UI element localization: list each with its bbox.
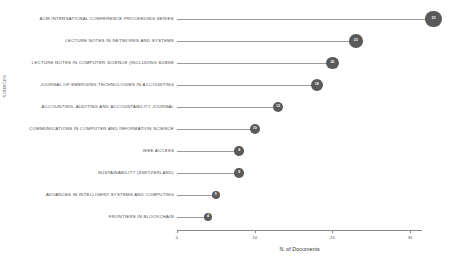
stem-line <box>177 129 255 130</box>
x-tick-mark <box>177 230 178 233</box>
chart-row: SUSTAINABILITY (SWITZERLAND)8 <box>0 162 464 184</box>
x-tick-label: 0 <box>162 235 192 240</box>
x-tick-label: 30 <box>395 235 425 240</box>
stem-line <box>177 41 356 42</box>
value-marker[interactable]: 4 <box>204 213 212 221</box>
category-label: ADVANCES IN INTELLIGENT SYSTEMS AND COMP… <box>0 184 174 206</box>
value-marker[interactable]: 23 <box>349 34 363 48</box>
category-label: JOURNAL OF EMERGING TECHNOLOGIES IN ACCO… <box>0 74 174 96</box>
chart-row: JOURNAL OF EMERGING TECHNOLOGIES IN ACCO… <box>0 74 464 96</box>
x-tick-mark <box>410 230 411 233</box>
x-axis-title: N. of Documents <box>180 246 420 252</box>
plot-area: ACM INTERNATIONAL CONFERENCE PROCEEDING … <box>0 0 464 268</box>
chart-row: COMMUNICATIONS IN COMPUTER AND INFORMATI… <box>0 118 464 140</box>
category-label: ACM INTERNATIONAL CONFERENCE PROCEEDING … <box>0 8 174 30</box>
chart-row: ACCOUNTING, AUDITING AND ACCOUNTABILITY … <box>0 96 464 118</box>
value-marker[interactable]: 8 <box>234 146 243 155</box>
chart-row: LECTURE NOTES IN NETWORKS AND SYSTEMS23 <box>0 30 464 52</box>
stem-line <box>177 173 239 174</box>
chart-row: ACM INTERNATIONAL CONFERENCE PROCEEDING … <box>0 8 464 30</box>
x-tick-label: 20 <box>317 235 347 240</box>
stem-line <box>177 107 278 108</box>
chart-row: FRONTIERS IN BLOCKCHAIN4 <box>0 206 464 228</box>
value-marker[interactable]: 13 <box>273 102 284 113</box>
value-marker[interactable]: 10 <box>250 124 260 134</box>
category-label: FRONTIERS IN BLOCKCHAIN <box>0 206 174 228</box>
x-tick-label: 10 <box>240 235 270 240</box>
chart-row: IEEE ACCESS8 <box>0 140 464 162</box>
value-marker[interactable]: 33 <box>425 11 441 27</box>
stem-line <box>177 195 216 196</box>
chart-row: ADVANCES IN INTELLIGENT SYSTEMS AND COMP… <box>0 184 464 206</box>
x-axis-line <box>177 230 422 231</box>
category-label: COMMUNICATIONS IN COMPUTER AND INFORMATI… <box>0 118 174 140</box>
stem-line <box>177 151 239 152</box>
category-label: SUSTAINABILITY (SWITZERLAND) <box>0 162 174 184</box>
lollipop-chart: SOURCES ACM INTERNATIONAL CONFERENCE PRO… <box>0 0 464 268</box>
category-label: IEEE ACCESS <box>0 140 174 162</box>
value-marker[interactable]: 5 <box>212 191 221 200</box>
value-marker[interactable]: 20 <box>326 57 339 70</box>
stem-line <box>177 19 433 20</box>
category-label: ACCOUNTING, AUDITING AND ACCOUNTABILITY … <box>0 96 174 118</box>
chart-row: LECTURE NOTES IN COMPUTER SCIENCE (INCLU… <box>0 52 464 74</box>
category-label: LECTURE NOTES IN NETWORKS AND SYSTEMS <box>0 30 174 52</box>
value-marker[interactable]: 8 <box>234 168 243 177</box>
stem-line <box>177 63 332 64</box>
stem-line <box>177 85 317 86</box>
category-label: LECTURE NOTES IN COMPUTER SCIENCE (INCLU… <box>0 52 174 74</box>
x-tick-mark <box>332 230 333 233</box>
value-marker[interactable]: 18 <box>311 79 323 91</box>
x-tick-mark <box>255 230 256 233</box>
